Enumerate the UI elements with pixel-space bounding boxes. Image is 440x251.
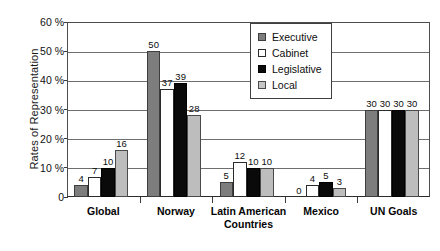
y-axis-ticks: 010 %20 %30 %40 %50 %60 % xyxy=(12,22,64,197)
x-tick-mark xyxy=(357,197,358,203)
bar-legislative xyxy=(392,110,406,198)
y-tick-label: 30 % xyxy=(18,104,64,116)
legend: ExecutiveCabinetLegislativeLocal xyxy=(250,23,332,99)
bar-local xyxy=(115,150,129,197)
legend-item-label: Legislative xyxy=(272,63,322,75)
bar-local xyxy=(333,188,347,197)
bar-legislative xyxy=(174,83,188,197)
x-axis-label: Latin AmericanCountries xyxy=(211,205,286,230)
legend-item-cabinet[interactable]: Cabinet xyxy=(258,45,325,61)
x-axis-label: Global xyxy=(87,205,120,218)
x-axis-label-line: Countries xyxy=(211,218,286,231)
bar-group xyxy=(147,22,201,197)
legend-item-legislative[interactable]: Legislative xyxy=(258,61,325,77)
bar-legislative xyxy=(319,182,333,197)
x-axis-labels: GlobalNorwayLatin AmericanCountriesMexic… xyxy=(67,205,430,249)
bar-group xyxy=(74,22,128,197)
legend-swatch-icon xyxy=(258,33,266,41)
bar-executive xyxy=(220,182,234,197)
bar-local xyxy=(260,168,274,197)
bar-legislative xyxy=(101,168,115,197)
x-axis-label: UN Goals xyxy=(370,205,417,218)
y-tick-label: 60 % xyxy=(18,16,64,28)
bar-cabinet xyxy=(306,185,320,197)
x-axis-label-line: Global xyxy=(87,205,120,218)
x-tick-mark xyxy=(285,197,286,203)
x-axis-ticks xyxy=(67,197,430,204)
legend-swatch-icon xyxy=(258,65,266,73)
legend-item-label: Local xyxy=(272,79,297,91)
legend-item-executive[interactable]: Executive xyxy=(258,29,325,45)
y-tick-label: 0 xyxy=(18,191,64,203)
bars-layer: 471016503739285121010045330303030 xyxy=(67,22,430,197)
bar-executive xyxy=(365,110,379,198)
bar-local xyxy=(187,115,201,197)
y-tick-label: 20 % xyxy=(18,133,64,145)
bar-cabinet xyxy=(88,177,102,197)
bar-executive xyxy=(147,51,161,197)
x-tick-mark xyxy=(212,197,213,203)
x-tick-mark xyxy=(140,197,141,203)
y-tick-label: 40 % xyxy=(18,74,64,86)
legend-item-label: Executive xyxy=(272,31,318,43)
bar-executive xyxy=(74,185,88,197)
x-axis-label: Norway xyxy=(157,205,195,218)
bar-group xyxy=(365,22,419,197)
legend-swatch-icon xyxy=(258,81,266,89)
y-tick-label: 50 % xyxy=(18,45,64,57)
x-axis-label: Mexico xyxy=(303,205,339,218)
bar-cabinet xyxy=(378,110,392,198)
x-axis-label-line: Norway xyxy=(157,205,195,218)
legend-swatch-icon xyxy=(258,49,266,57)
bar-legislative xyxy=(247,168,261,197)
bar-cabinet xyxy=(233,162,247,197)
bar-cabinet xyxy=(160,89,174,197)
legend-item-label: Cabinet xyxy=(272,47,308,59)
x-axis-label-line: Mexico xyxy=(303,205,339,218)
bar-chart: Rates of Representation 010 %20 %30 %40 … xyxy=(0,0,440,251)
y-tick-label: 10 % xyxy=(18,162,64,174)
legend-item-local[interactable]: Local xyxy=(258,77,325,93)
bar-local xyxy=(405,110,419,198)
x-axis-label-line: Latin American xyxy=(211,205,286,218)
x-axis-label-line: UN Goals xyxy=(370,205,417,218)
